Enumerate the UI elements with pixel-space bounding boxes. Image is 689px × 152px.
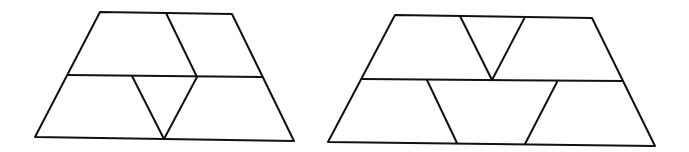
- dividing-line: [525, 82, 557, 144]
- diagram-canvas: [0, 0, 689, 152]
- dividing-line: [427, 80, 457, 143]
- right-trapezoid: [328, 15, 655, 146]
- left-trapezoid: [35, 12, 294, 141]
- dividing-line: [492, 17, 525, 80]
- dividing-line: [164, 77, 197, 139]
- dividing-line: [132, 76, 164, 139]
- dividing-line: [68, 75, 262, 77]
- dividing-line: [460, 16, 492, 80]
- dividing-line: [166, 13, 197, 77]
